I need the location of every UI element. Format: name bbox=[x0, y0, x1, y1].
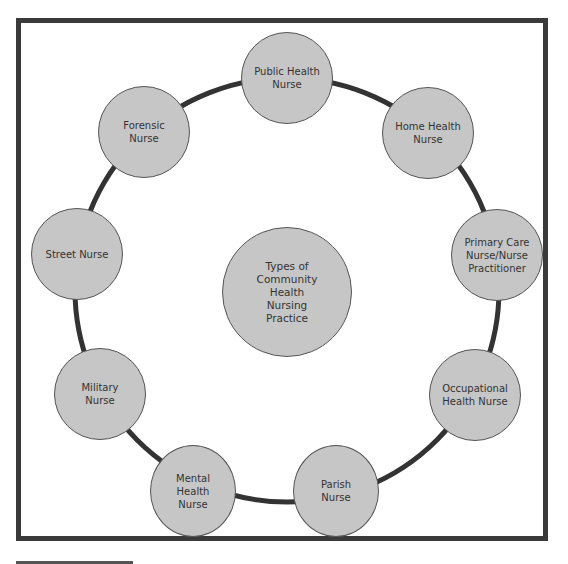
node-primary-care: Primary CareNurse/NursePractitioner bbox=[451, 209, 543, 301]
label-line: Health bbox=[251, 286, 324, 299]
node-public-health: Public HealthNurse bbox=[241, 32, 333, 124]
label-line: Nursing bbox=[251, 299, 324, 312]
node-street: Street Nurse bbox=[31, 208, 123, 300]
label-line: Health Nurse bbox=[436, 395, 514, 408]
label-line: Occupational bbox=[436, 382, 514, 395]
label-line: Practitioner bbox=[459, 262, 536, 275]
label-line: Home Health bbox=[389, 120, 467, 133]
label-line: Parish Nurse bbox=[300, 478, 372, 504]
label-line: Nurse/Nurse bbox=[459, 249, 536, 262]
label-line: Forensic Nurse bbox=[105, 119, 183, 145]
label-line: Nurse bbox=[75, 394, 124, 407]
label-line: Mental bbox=[157, 472, 229, 485]
node-center: Types of Community Health Nursing Practi… bbox=[222, 227, 352, 357]
label-line: Community bbox=[251, 273, 324, 286]
label-line: Nurse bbox=[248, 78, 326, 91]
label-line: Military bbox=[75, 381, 124, 394]
node-occupational: OccupationalHealth Nurse bbox=[429, 349, 521, 441]
label-line: Public Health bbox=[248, 65, 326, 78]
node-military: MilitaryNurse bbox=[54, 348, 146, 440]
node-home-health: Home HealthNurse bbox=[382, 87, 474, 179]
label-line: Types of bbox=[251, 260, 324, 273]
node-forensic: Forensic Nurse bbox=[98, 86, 190, 178]
node-mental-health: MentalHealth Nurse bbox=[150, 445, 236, 537]
label-line: Street Nurse bbox=[40, 248, 115, 261]
node-parish: Parish Nurse bbox=[293, 445, 379, 537]
label-line: Health Nurse bbox=[157, 485, 229, 511]
label-line: Primary Care bbox=[459, 236, 536, 249]
label-line: Practice bbox=[251, 312, 324, 325]
label-line: Nurse bbox=[389, 133, 467, 146]
